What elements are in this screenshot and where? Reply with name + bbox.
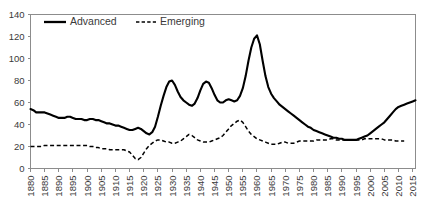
x-axis-tick-label: 1930 (167, 176, 178, 197)
x-axis-tick-label: 1955 (237, 176, 248, 197)
x-axis-tick-label: 2010 (393, 176, 404, 197)
chart-legend: Advanced Emerging (44, 15, 205, 27)
x-axis-tick-label: 1980 (308, 176, 319, 197)
x-axis-tick-label: 1995 (351, 176, 362, 197)
y-axis-tick-label: 80 (14, 75, 25, 86)
legend-label-emerging: Emerging (160, 15, 205, 27)
y-axis-tick-label: 100 (9, 53, 25, 64)
x-axis-tick-label: 1920 (138, 176, 149, 197)
x-axis-tick-label: 1950 (223, 176, 234, 197)
x-axis-tick-label: 1960 (251, 176, 262, 197)
x-axis-tick-label: 2000 (365, 176, 376, 197)
y-axis-tick-label: 60 (14, 97, 25, 108)
y-axis-tick-label: 40 (14, 119, 25, 130)
y-axis-tick-label: 0 (19, 163, 24, 174)
x-axis-tick-label: 1945 (209, 176, 220, 197)
series-line-advanced (31, 35, 416, 139)
x-axis-tick-label: 1895 (67, 176, 78, 197)
x-axis-tick-label: 1915 (124, 176, 135, 197)
x-axis-tick-label: 2015 (407, 176, 418, 197)
y-axis-tick-label: 20 (14, 141, 25, 152)
chart-container: 020406080100120140 188018851890189519001… (0, 0, 438, 214)
x-axis-tick-label: 1880 (25, 176, 36, 197)
line-chart: 020406080100120140 188018851890189519001… (0, 0, 438, 214)
x-axis-tick-label: 1925 (152, 176, 163, 197)
x-axis-tick-label: 1990 (336, 176, 347, 197)
x-axis-tick-label: 1905 (96, 176, 107, 197)
x-axis-tick-labels: 1880188518901895190019051910191519201925… (25, 176, 418, 197)
x-axis-tick-label: 1910 (110, 176, 121, 197)
x-axis-tick-label: 1965 (266, 176, 277, 197)
x-axis-tick-label: 1985 (322, 176, 333, 197)
y-axis-tick-labels: 020406080100120140 (9, 9, 25, 174)
y-axis-tick-label: 120 (9, 31, 25, 42)
x-axis-tick-label: 1890 (53, 176, 64, 197)
x-axis-tick-label: 1940 (195, 176, 206, 197)
x-axis-tick-label: 1900 (82, 176, 93, 197)
x-axis-tick-label: 1935 (181, 176, 192, 197)
x-axis-tick-label: 1970 (280, 176, 291, 197)
x-axis-tick-label: 2005 (379, 176, 390, 197)
legend-label-advanced: Advanced (70, 15, 117, 27)
x-axis-tick-label: 1885 (39, 176, 50, 197)
x-axis-tick-label: 1975 (294, 176, 305, 197)
y-axis-tick-label: 140 (9, 9, 25, 20)
